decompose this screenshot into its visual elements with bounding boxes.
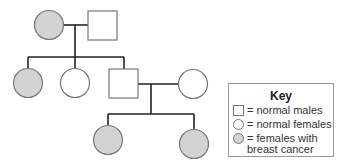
individual-III-2-affected-female: [180, 130, 209, 159]
individual-II-1-affected-female: [14, 69, 43, 98]
square-icon: [233, 105, 244, 116]
individual-I-1-affected-female: [35, 11, 64, 40]
key-row-normal-males: = normal males: [233, 104, 323, 116]
individual-I-2-male: [88, 11, 117, 40]
individual-II-3-male: [109, 69, 138, 98]
key-label: = normal males: [247, 104, 323, 116]
individual-II-2-female: [61, 69, 90, 98]
key-row-normal-females: = normal females: [233, 118, 332, 130]
individual-II-4-female: [179, 70, 208, 99]
key-title: Key: [229, 89, 333, 103]
key-label-continued: breast cancer: [247, 143, 314, 155]
key-legend: Key = normal males = normal females = fe…: [228, 83, 334, 157]
circle-icon: [233, 119, 244, 130]
shaded-circle-icon: [233, 133, 244, 144]
individual-III-1-affected-female: [94, 126, 123, 155]
key-label: = normal females: [247, 118, 332, 130]
